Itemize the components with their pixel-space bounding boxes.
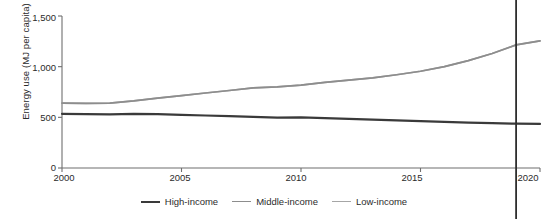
legend-swatch-low-income [332, 201, 351, 202]
legend-label-middle-income: Middle-income [256, 196, 318, 207]
data-series-group [62, 41, 540, 124]
axis-lines [58, 16, 540, 172]
legend-item-low-income[interactable]: Low-income [332, 196, 407, 207]
plot-area [0, 0, 548, 219]
series-line-low-income [62, 41, 540, 104]
legend-label-low-income: Low-income [356, 196, 407, 207]
legend: High-income Middle-income Low-income [0, 196, 548, 207]
y-tick-marks [58, 16, 62, 168]
legend-swatch-middle-income [232, 201, 251, 202]
series-line-middle-income [62, 41, 540, 104]
legend-swatch-high-income [141, 201, 160, 203]
legend-label-high-income: High-income [165, 196, 218, 207]
x-tick-marks [62, 168, 540, 172]
energy-use-line-chart: Energy use (MJ per capita) 0 500 1,000 1… [0, 0, 548, 219]
legend-item-middle-income[interactable]: Middle-income [232, 196, 318, 207]
series-line-high-income [62, 114, 540, 124]
legend-item-high-income[interactable]: High-income [141, 196, 218, 207]
